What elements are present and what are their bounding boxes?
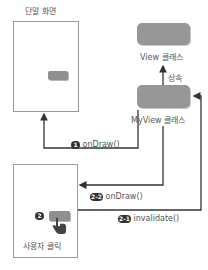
view-widget (48, 71, 68, 80)
device-screen-top (13, 21, 79, 112)
step2-2-text: onDraw() (106, 192, 143, 201)
user-click-caption: 사용자 클릭 (23, 240, 61, 251)
device-screen-title: 단말 화면 (25, 5, 56, 16)
step2-badge: 2 (35, 212, 44, 220)
hand-pointer-icon (51, 217, 67, 235)
step1-text: onDraw() (83, 140, 120, 149)
step1-label: 1 onDraw() (71, 140, 120, 149)
step2-1-label: 2-1 invalidate() (118, 214, 179, 223)
inheritance-label: 상속 (168, 72, 182, 83)
step2-2-badge: 2-2 (90, 193, 103, 201)
myview-class-label: MyView 클래스 (131, 114, 185, 125)
step2-2-label: 2-2 onDraw() (90, 192, 143, 201)
view-class-label: View 클래스 (140, 51, 183, 62)
step2-1-badge: 2-1 (118, 215, 131, 223)
step2-1-text: invalidate() (134, 214, 180, 223)
device-screen-bottom: 2 사용자 클릭 (13, 164, 78, 258)
view-class-box (137, 23, 190, 45)
step1-badge: 1 (71, 141, 80, 149)
myview-class-box (137, 85, 190, 108)
